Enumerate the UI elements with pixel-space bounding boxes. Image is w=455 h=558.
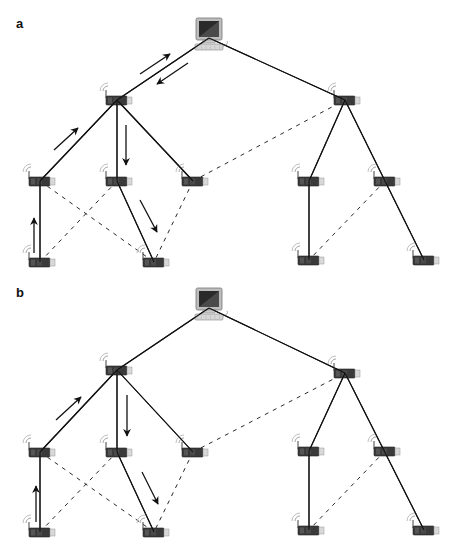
solid-link bbox=[117, 38, 209, 100]
solid-link bbox=[117, 370, 193, 452]
dashed-link bbox=[40, 452, 117, 532]
solid-link bbox=[309, 100, 345, 181]
dashed-link bbox=[193, 373, 345, 452]
sensor-node-icon bbox=[137, 245, 169, 267]
sensor-node-icon bbox=[368, 164, 400, 186]
data-flow-arrow-icon bbox=[54, 128, 78, 150]
solid-link bbox=[309, 373, 345, 451]
data-flow-arrow-icon bbox=[157, 63, 188, 84]
sensor-node-icon bbox=[292, 164, 324, 186]
sensor-node-icon bbox=[292, 513, 324, 535]
dashed-link bbox=[40, 181, 154, 262]
sensor-node-icon bbox=[100, 435, 132, 457]
solid-link bbox=[117, 100, 193, 181]
solid-link bbox=[117, 452, 154, 532]
dashed-link bbox=[154, 181, 193, 262]
sensor-node-icon bbox=[292, 243, 324, 265]
solid-link bbox=[40, 100, 117, 181]
data-flow-arrow-icon bbox=[140, 200, 157, 232]
link-overlay bbox=[40, 38, 424, 532]
solid-link bbox=[209, 38, 345, 100]
dashed-link bbox=[40, 181, 117, 262]
dashed-link bbox=[309, 181, 385, 260]
solid-link bbox=[117, 181, 154, 262]
data-flow-arrow-icon bbox=[140, 54, 170, 74]
computer-icon bbox=[195, 288, 228, 320]
dashed-link bbox=[309, 451, 385, 530]
solid-link bbox=[40, 370, 117, 452]
dashed-link bbox=[154, 452, 193, 532]
solid-link bbox=[345, 373, 424, 530]
sensor-node-icon bbox=[100, 164, 132, 186]
computer-icon bbox=[195, 18, 228, 50]
dashed-link bbox=[40, 452, 154, 532]
sensor-node-icon bbox=[292, 434, 324, 456]
sensor-node-icon bbox=[407, 513, 439, 535]
network-diagram bbox=[0, 0, 455, 558]
sensor-node-icon bbox=[23, 435, 55, 457]
solid-link bbox=[209, 308, 345, 373]
sensor-node-icon bbox=[23, 515, 55, 537]
dashed-link bbox=[193, 100, 345, 181]
solid-link bbox=[117, 308, 209, 370]
sensor-node-icon bbox=[23, 245, 55, 267]
sensor-node-icon bbox=[407, 243, 439, 265]
sensor-node-icon bbox=[137, 515, 169, 537]
data-flow-arrow-icon bbox=[142, 472, 158, 504]
data-flow-arrow-icon bbox=[56, 397, 81, 420]
sensor-node-icon bbox=[23, 164, 55, 186]
sensor-node-icon bbox=[368, 434, 400, 456]
solid-link bbox=[345, 100, 424, 260]
